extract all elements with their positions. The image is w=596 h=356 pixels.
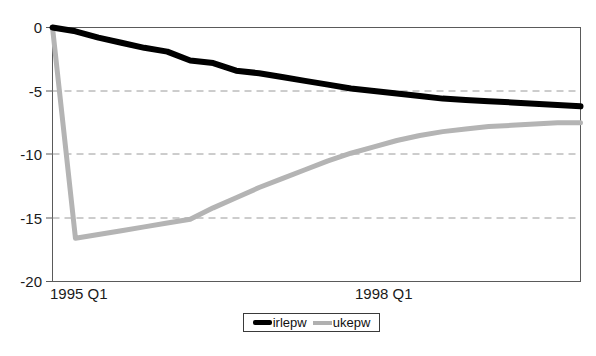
chart-legend: irlepw ukepw xyxy=(243,313,380,332)
chart-plot-svg: 0 -5 -10 -15 -20 1995 Q1 1998 Q1 xyxy=(0,0,596,356)
legend-swatch-icon-ukepw xyxy=(313,321,332,325)
ytick-label: 0 xyxy=(34,19,42,36)
ytick-label: -15 xyxy=(20,210,42,227)
xtick-label-right: 1998 Q1 xyxy=(355,285,413,302)
ytick-label: -5 xyxy=(29,83,42,100)
x-axis-tick-labels: 1995 Q1 1998 Q1 xyxy=(50,285,413,302)
legend-label-ukepw: ukepw xyxy=(333,316,371,329)
legend-item-irlepw: irlepw xyxy=(253,316,307,329)
legend-item-ukepw: ukepw xyxy=(313,316,371,329)
y-axis-tick-labels: 0 -5 -10 -15 -20 xyxy=(20,19,42,290)
legend-swatch-icon-irlepw xyxy=(253,320,272,325)
xtick-label-left: 1995 Q1 xyxy=(50,285,108,302)
legend-label-irlepw: irlepw xyxy=(273,316,307,329)
ytick-label: -10 xyxy=(20,146,42,163)
y-axis-ticks xyxy=(46,28,53,282)
chart-container: 0 -5 -10 -15 -20 1995 Q1 1998 Q1 irlepw … xyxy=(0,0,596,356)
ytick-label: -20 xyxy=(20,273,42,290)
